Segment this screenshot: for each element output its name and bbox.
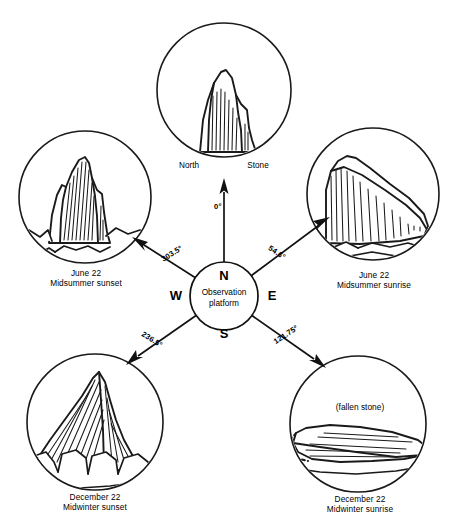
caption-line1: June 22: [303, 270, 445, 280]
diagram-graphics: [0, 0, 451, 524]
view-midwinter-sunset: [27, 354, 163, 490]
caption-line2: Midsummer sunrise: [303, 280, 445, 290]
observation-platform-label: Observation platform: [182, 287, 266, 309]
caption-line2: Midwinter sunrise: [289, 504, 431, 514]
caption-line1: June 22: [15, 268, 157, 278]
north-stone-label-right: Stone: [236, 161, 280, 171]
compass-north: N: [208, 268, 240, 284]
caption-line2: Midsummer sunset: [15, 278, 157, 288]
observation-platform-line2: platform: [182, 298, 266, 309]
view-midsummer-sunrise: [307, 128, 439, 260]
north-stone-label-left: North: [168, 161, 210, 171]
view-midsummer-sunset: [19, 131, 151, 263]
compass-south: S: [208, 326, 240, 342]
view-midwinter-sunrise: [289, 356, 428, 492]
fallen-stone-note: (fallen stone): [308, 402, 412, 412]
caption-midsummer-sunset: June 22 Midsummer sunset: [15, 268, 157, 288]
caption-line1: December 22: [289, 494, 431, 504]
caption-line2: Midwinter sunset: [24, 502, 166, 512]
caption-midwinter-sunset: December 22 Midwinter sunset: [24, 492, 166, 512]
caption-midwinter-sunrise: December 22 Midwinter sunrise: [289, 494, 431, 514]
angle-label-0: 0°: [214, 202, 248, 211]
diagram-canvas: North Stone 0° N E S W Observation platf…: [0, 0, 451, 524]
view-north-stone: [157, 23, 291, 157]
caption-line1: December 22: [24, 492, 166, 502]
caption-midsummer-sunrise: June 22 Midsummer sunrise: [303, 270, 445, 290]
observation-platform-line1: Observation: [182, 287, 266, 298]
